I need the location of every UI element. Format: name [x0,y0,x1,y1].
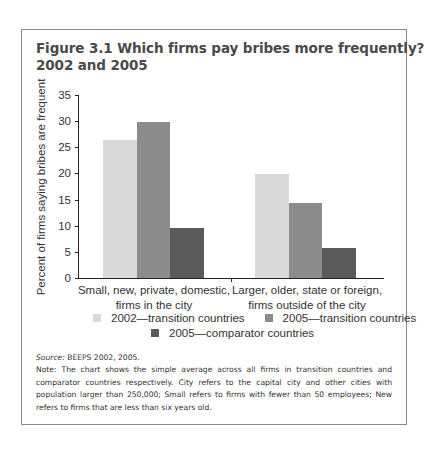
y-axis-label: Percent of firms saying bribes are frequ… [35,79,47,296]
legend-label: 2005—comparator countries [169,327,314,339]
legend-item-2005-transition: 2005—transition countries [265,312,417,324]
source-label: Source: [36,353,65,362]
x-axis-tick [231,278,232,282]
y-tick-mark [75,147,79,148]
bar [170,228,204,278]
source-line: Source: BEEPS 2002, 2005. [36,352,392,364]
y-tick-mark [75,226,79,227]
y-axis-line [78,95,79,278]
figure-notes: Source: BEEPS 2002, 2005. Note: The char… [36,352,392,414]
legend-item-2002-transition: 2002—transition countries [93,312,245,324]
y-tick-mark [75,278,79,279]
legend-swatch [93,314,101,322]
y-tick-label: 15 [51,194,71,206]
bar [255,174,289,278]
y-tick-label: 25 [51,141,71,153]
y-tick-mark [75,95,79,96]
legend-swatch [265,314,273,322]
y-tick-label: 5 [51,246,71,258]
y-tick-label: 20 [51,167,71,179]
y-tick-mark [75,200,79,201]
legend-row-1: 2002—transition countries 2005—transitio… [93,312,431,324]
y-tick-mark [75,173,79,174]
bar [322,248,356,278]
legend-swatch [151,329,159,337]
bar [137,122,171,278]
y-tick-label: 35 [51,89,71,101]
legend-label: 2002—transition countries [111,312,245,324]
legend-item-2005-comparator: 2005—comparator countries [151,327,314,339]
x-category-label: Larger, older, state or foreign,firms ou… [222,283,392,313]
x-category-label: Small, new, private, domestic,firms in t… [69,283,239,313]
y-tick-mark [75,252,79,253]
y-tick-mark [75,121,79,122]
source-text: BEEPS 2002, 2005. [65,353,140,362]
y-tick-label: 10 [51,220,71,232]
bar [289,203,323,278]
bar [103,140,137,278]
note-text: Note: The chart shows the simple average… [36,364,392,414]
legend-row-2: 2005—comparator countries [151,327,334,339]
y-tick-label: 30 [51,115,71,127]
legend-label: 2005—transition countries [283,312,417,324]
y-tick-label: 0 [51,272,71,284]
